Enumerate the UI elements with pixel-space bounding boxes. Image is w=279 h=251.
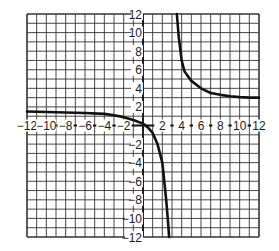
x-tick-label: −10: [36, 119, 57, 133]
x-tick-label: 2: [159, 119, 166, 133]
x-tick-label: −2: [117, 119, 131, 133]
x-tick-label: 4: [178, 119, 185, 133]
y-tick-label: −12: [122, 231, 143, 245]
x-tick-label: −6: [78, 119, 92, 133]
x-tick-label: −8: [59, 119, 73, 133]
y-tick-label: 6: [135, 63, 142, 77]
x-tick-label: 8: [217, 119, 224, 133]
y-tick-label: 10: [129, 26, 143, 40]
y-tick-label: −4: [128, 156, 142, 170]
x-tick-label: −12: [17, 119, 38, 133]
y-tick-label: −10: [122, 212, 143, 226]
y-tick-label: 8: [135, 45, 142, 59]
curve-right-branch: [177, 14, 259, 98]
y-tick-label: −8: [128, 193, 142, 207]
x-tick-label: 6: [198, 119, 205, 133]
y-tick-label: −6: [128, 175, 142, 189]
x-tick-label: 12: [252, 119, 266, 133]
x-tick-label: −4: [97, 119, 111, 133]
y-tick-label: −2: [128, 138, 142, 152]
x-tick-label: 10: [233, 119, 247, 133]
y-tick-label: 2: [135, 100, 142, 114]
coordinate-plane: −12−10−8−6−4−224681012 12108642−2−4−6−8−…: [0, 0, 279, 251]
y-tick-label: 12: [129, 8, 143, 22]
y-tick-label: 4: [135, 82, 142, 96]
